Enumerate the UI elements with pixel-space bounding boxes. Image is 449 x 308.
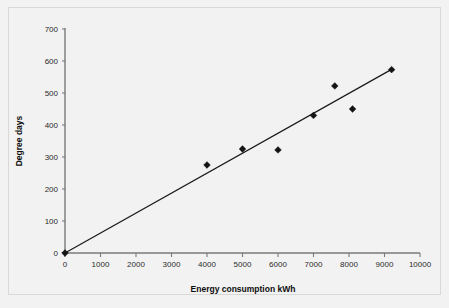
x-tick-label: 0: [63, 260, 68, 269]
data-point-marker: [204, 162, 211, 169]
x-tick-label: 3000: [163, 260, 181, 269]
x-tick-label: 2000: [127, 260, 145, 269]
x-axis-title: Energy consumption kWh: [191, 284, 296, 294]
x-tick-label: 9000: [376, 260, 394, 269]
chart-canvas: 0100200300400500600700 01000200030004000…: [0, 0, 449, 308]
data-point-marker: [62, 250, 69, 257]
y-tick-label: 600: [45, 57, 59, 66]
y-tick-label: 400: [45, 121, 59, 130]
data-point-marker: [388, 66, 395, 73]
y-tick-label: 500: [45, 89, 59, 98]
x-axis-ticks: 0100020003000400050006000700080009000100…: [63, 253, 432, 269]
trend-line: [65, 68, 393, 253]
y-tick-label: 100: [45, 217, 59, 226]
x-tick-label: 4000: [198, 260, 216, 269]
x-tick-label: 1000: [92, 260, 110, 269]
x-tick-label: 10000: [409, 260, 432, 269]
data-point-marker: [310, 112, 317, 119]
y-tick-label: 300: [45, 153, 59, 162]
y-tick-label: 700: [45, 25, 59, 34]
y-tick-label: 200: [45, 185, 59, 194]
data-point-marker: [349, 106, 356, 113]
data-point-marker: [331, 83, 338, 90]
scatter-chart: 0100200300400500600700 01000200030004000…: [0, 0, 449, 308]
x-tick-label: 7000: [305, 260, 323, 269]
x-tick-label: 6000: [269, 260, 287, 269]
y-tick-label: 0: [54, 249, 59, 258]
y-axis-title: Degree days: [14, 115, 24, 166]
x-tick-label: 5000: [234, 260, 252, 269]
x-tick-label: 8000: [340, 260, 358, 269]
data-point-marker: [275, 147, 282, 154]
y-axis-ticks: 0100200300400500600700: [45, 25, 65, 258]
